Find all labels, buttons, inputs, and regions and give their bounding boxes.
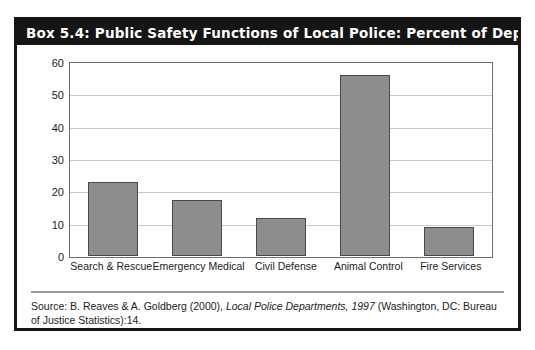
source-note: Source: B. Reaves & A. Goldberg (2000), …	[31, 299, 502, 327]
plot-area: 0102030405060	[69, 62, 493, 258]
bar	[88, 182, 138, 256]
bar-slot	[239, 64, 323, 256]
source-prefix: Source: B. Reaves & A. Goldberg (2000),	[31, 300, 226, 312]
bar	[424, 227, 474, 256]
bar-slot	[71, 64, 155, 256]
x-axis-label: Emergency Medical	[152, 260, 244, 272]
y-tick-label: 20	[52, 186, 64, 198]
source-divider	[31, 291, 504, 293]
box-body: 0102030405060 Search & RescueEmergency M…	[17, 45, 518, 328]
y-tick-label: 0	[58, 251, 64, 263]
y-tick-label: 40	[52, 122, 64, 134]
bar-slot	[407, 64, 491, 256]
bars-container	[71, 64, 491, 256]
x-axis-label: Civil Defense	[245, 260, 327, 272]
x-axis-label: Search & Rescue	[70, 260, 152, 272]
bar-slot	[323, 64, 407, 256]
source-title-italic: Local Police Departments, 1997	[226, 300, 375, 312]
bar	[172, 200, 222, 256]
bar	[340, 75, 390, 256]
bar-slot	[155, 64, 239, 256]
box-title: Box 5.4: Public Safety Functions of Loca…	[17, 20, 518, 45]
x-axis-label: Animal Control	[327, 260, 409, 272]
x-axis-label: Fire Services	[410, 260, 492, 272]
y-tick-label: 50	[52, 89, 64, 101]
x-axis-labels: Search & RescueEmergency MedicalCivil De…	[70, 260, 492, 272]
y-tick-label: 10	[52, 219, 64, 231]
y-tick-label: 60	[52, 57, 64, 69]
figure-box: Box 5.4: Public Safety Functions of Loca…	[14, 17, 521, 331]
bar-chart: 0102030405060 Search & RescueEmergency M…	[17, 45, 518, 295]
bar	[256, 218, 306, 256]
y-tick-label: 30	[52, 154, 64, 166]
